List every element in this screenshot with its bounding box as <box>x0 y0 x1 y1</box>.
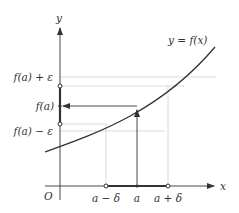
curve-label: y = f(x) <box>167 34 207 46</box>
x-tick-a-plus-delta: a + δ <box>154 192 182 204</box>
y-tick-fa: f(a) <box>35 100 54 112</box>
point-a <box>135 184 138 187</box>
point-upper-bound <box>58 84 62 88</box>
point-lower-bound <box>58 122 62 126</box>
y-tick-fa-plus-eps: f(a) + ε <box>13 71 54 83</box>
x-axis-label: x <box>220 180 226 192</box>
origin-label: O <box>44 190 53 202</box>
gridlines <box>60 77 216 186</box>
continuity-diagram: y x O y = f(x) f(a) + ε f(a) f(a) − ε a … <box>0 0 239 213</box>
point-a-minus-delta <box>104 184 108 188</box>
point-fa <box>58 104 61 107</box>
point-a-plus-delta <box>166 184 170 188</box>
x-tick-a: a <box>134 192 140 204</box>
y-tick-fa-minus-eps: f(a) − ε <box>13 125 54 137</box>
y-axis-label: y <box>55 12 63 24</box>
curve-f <box>45 47 215 152</box>
x-tick-a-minus-delta: a − δ <box>92 192 120 204</box>
